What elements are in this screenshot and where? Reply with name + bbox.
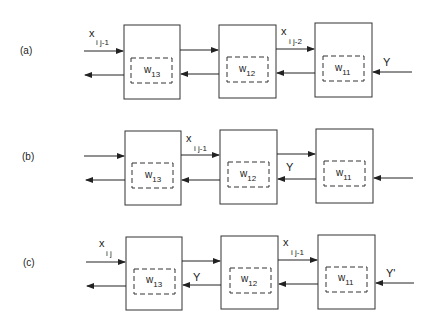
signal-y: Y bbox=[383, 56, 391, 68]
processing-block-3 bbox=[316, 129, 373, 203]
processing-block-2 bbox=[221, 236, 278, 309]
weight-subscript: 13 bbox=[151, 70, 160, 79]
signal-x: x bbox=[283, 236, 289, 248]
row-label-c: (c) bbox=[23, 257, 35, 268]
svg-text:w12: w12 bbox=[239, 168, 257, 183]
systolic-array-diagram: (a) w13 w12 w11 x i j-1 x i j-2 Y (b) bbox=[0, 0, 434, 330]
signal-subscript: i j bbox=[106, 249, 112, 258]
weight-subscript: 12 bbox=[246, 69, 255, 78]
weight-subscript: 11 bbox=[345, 278, 354, 287]
row-b: (b) w13 w12 w11 x i j-1 Y bbox=[22, 129, 413, 205]
weight-subscript: 13 bbox=[152, 175, 161, 184]
signal-x: x bbox=[99, 237, 105, 249]
signal-x: x bbox=[281, 25, 287, 37]
processing-block-1 bbox=[125, 131, 181, 205]
processing-block-3 bbox=[318, 235, 375, 309]
signal-y-prime: Y' bbox=[386, 267, 395, 279]
svg-text:w11: w11 bbox=[337, 272, 354, 287]
row-a: (a) w13 w12 w11 x i j-1 x i j-2 Y bbox=[20, 23, 412, 99]
weight-subscript: 12 bbox=[248, 279, 257, 288]
weight-subscript: 13 bbox=[153, 280, 162, 289]
svg-text:w13: w13 bbox=[143, 64, 161, 79]
processing-block-2 bbox=[219, 25, 276, 98]
svg-text:w11: w11 bbox=[335, 167, 352, 182]
weight-subscript: 11 bbox=[343, 173, 352, 182]
signal-subscript: i j-1 bbox=[194, 144, 207, 153]
svg-text:w13: w13 bbox=[145, 274, 163, 289]
signal-subscript: i j-1 bbox=[96, 38, 109, 47]
processing-block-2 bbox=[220, 130, 277, 204]
row-c: (c) w13 w12 w11 x i j Y x i j-1 Y' bbox=[23, 235, 414, 310]
svg-text:w11: w11 bbox=[334, 62, 351, 77]
svg-text:w13: w13 bbox=[144, 169, 162, 184]
processing-block-1 bbox=[126, 237, 182, 310]
signal-subscript: i j-1 bbox=[291, 248, 304, 257]
signal-subscript: i j-2 bbox=[289, 37, 302, 46]
row-label-b: (b) bbox=[22, 151, 34, 162]
svg-text:w12: w12 bbox=[240, 273, 258, 288]
signal-x: x bbox=[89, 27, 95, 39]
signal-y: Y bbox=[193, 271, 201, 283]
weight-subscript: 12 bbox=[247, 174, 256, 183]
signal-x: x bbox=[186, 132, 192, 144]
svg-text:w12: w12 bbox=[238, 63, 256, 78]
weight-subscript: 11 bbox=[342, 68, 351, 77]
svg-text:x: x bbox=[89, 27, 95, 39]
row-label-a: (a) bbox=[20, 45, 32, 56]
processing-block-3 bbox=[315, 23, 372, 97]
signal-y: Y bbox=[286, 161, 294, 173]
